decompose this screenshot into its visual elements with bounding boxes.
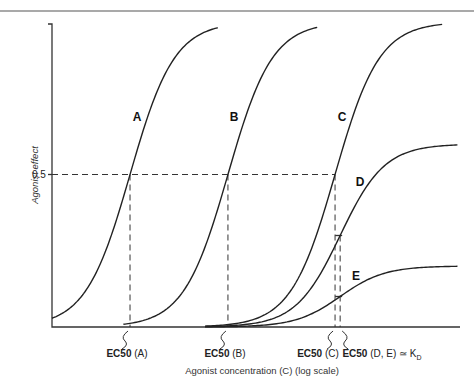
curve-C: [205, 24, 442, 326]
curve-label-E: E: [352, 269, 360, 283]
dose-response-chart: ABCDE EC50 (A)EC50 (B)EC50 (C)EC50 (D, E…: [0, 0, 474, 388]
curve-label-D: D: [356, 175, 365, 189]
axis-lines: [48, 24, 460, 327]
ec50-arrow-A: [122, 331, 128, 349]
curve-label-B: B: [230, 110, 239, 124]
axes: [48, 24, 460, 327]
y-axis-title: Agonist effect: [29, 146, 40, 205]
ec50-label-B: EC50 (B): [204, 348, 245, 359]
curve-E: [205, 266, 457, 327]
ec50-label-A: EC50 (A): [106, 348, 147, 359]
reference-lines: [52, 175, 342, 328]
curve-D: [205, 145, 457, 327]
ec50-label-D,E: EC50 (D, E) ≃ KD: [342, 348, 421, 361]
ec50-arrow-C: [327, 331, 333, 349]
curve-B: [123, 27, 317, 324]
curve-label-A: A: [133, 110, 142, 124]
x-axis-title: Agonist concentration (C) (log scale): [185, 365, 339, 376]
curves: [52, 24, 457, 326]
ec50-label-C: EC50 (C): [297, 348, 339, 359]
curve-label-C: C: [338, 110, 347, 124]
ec50-arrow-D,E: [342, 331, 348, 349]
ec50-arrow-B: [220, 331, 226, 349]
ec50-annotations: EC50 (A)EC50 (B)EC50 (C)EC50 (D, E) ≃ KD: [106, 331, 421, 361]
